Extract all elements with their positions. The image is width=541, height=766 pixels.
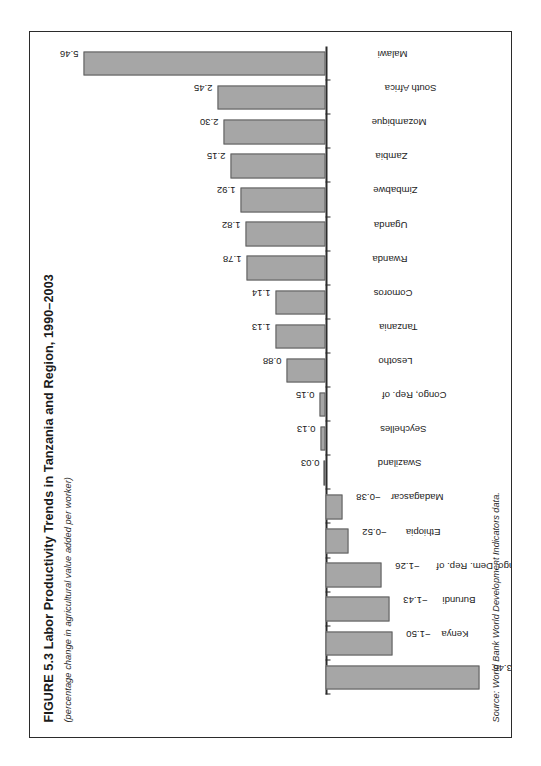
axis-tick — [325, 147, 330, 148]
bar — [325, 631, 392, 656]
axis-tick — [325, 318, 330, 319]
bar — [275, 290, 326, 315]
axis-tick — [325, 420, 330, 421]
bar-group: 1.13Tanzania — [83, 319, 479, 353]
bar-category-label: Ethiopia — [405, 526, 440, 537]
bar-value-label: −1.26 — [395, 560, 419, 571]
bar-group: 1.82Uganda — [83, 217, 479, 251]
axis-tick — [325, 181, 330, 182]
figure-canvas: FIGURE 5.3 Labor Productivity Trends in … — [29, 31, 512, 738]
bar-group: 5.46Malawi — [83, 46, 479, 80]
axis-tick — [325, 625, 330, 626]
bar-group: −3.46Botswana — [83, 660, 479, 694]
bar-category-label: Lesotho — [378, 355, 412, 366]
bar-value-label: 1.13 — [252, 321, 271, 332]
bar-value-label: 5.46 — [59, 48, 78, 59]
axis-tick — [325, 284, 330, 285]
bar-category-label: Rwanda — [372, 253, 407, 264]
bar — [286, 358, 325, 383]
bar-value-label: −0.52 — [362, 526, 386, 537]
bar-group: −0.52Ethiopia — [83, 524, 479, 558]
bar-group: 0.03Swaziland — [83, 455, 479, 489]
axis-tick — [325, 113, 330, 114]
bar-group: −1.50Kenya — [83, 626, 479, 660]
bar — [246, 255, 325, 280]
axis-tick — [325, 591, 330, 592]
bar-value-label: −0.38 — [356, 491, 380, 502]
axis-tick — [325, 79, 330, 80]
bar-category-label: Zimbabwe — [372, 184, 416, 195]
bar-group: 0.13Seychelles — [83, 421, 479, 455]
bar — [83, 51, 325, 76]
bar-value-label: 2.45 — [193, 82, 212, 93]
bar-category-label: Swaziland — [378, 457, 422, 468]
bar-group: −1.43Burundi — [83, 592, 479, 626]
axis-tick — [325, 659, 330, 660]
bar — [223, 119, 325, 144]
bar-chart-plot-area: −3.46Botswana−1.50Kenya−1.43Burundi−1.26… — [83, 46, 479, 694]
bar-value-label: 0.88 — [263, 355, 282, 366]
bar — [245, 221, 326, 246]
bar-category-label: Mozambique — [371, 116, 426, 127]
bar-group: 1.14Comoros — [83, 285, 479, 319]
bar-category-label: Seychelles — [380, 423, 426, 434]
figure-title: FIGURE 5.3 Labor Productivity Trends in … — [41, 274, 55, 722]
axis-tick — [325, 386, 330, 387]
axis-tick — [325, 557, 330, 558]
bar-value-label: 0.03 — [300, 457, 319, 468]
axis-tick — [325, 522, 330, 523]
bar-value-label: 1.92 — [216, 184, 235, 195]
bar-group: −0.38Madagascar — [83, 489, 479, 523]
bar-category-label: Madagascar — [390, 491, 443, 502]
axis-tick — [325, 488, 330, 489]
bar-group: 1.92Zimbabwe — [83, 182, 479, 216]
bar-category-label: Congo, Rep. of — [381, 389, 446, 400]
bar — [323, 460, 325, 485]
bar — [325, 528, 348, 553]
bar-group: 2.45South Africa — [83, 80, 479, 114]
bar — [325, 596, 388, 621]
bar-group: 1.78Rwanda — [83, 251, 479, 285]
bar-value-label: 0.15 — [295, 389, 314, 400]
axis-tick — [325, 352, 330, 353]
bar — [320, 426, 326, 451]
bar-value-label: 1.14 — [251, 287, 270, 298]
bar — [325, 665, 479, 690]
bar-category-label: Tanzania — [378, 321, 416, 332]
bar — [325, 562, 381, 587]
bar — [240, 187, 325, 212]
bar — [275, 324, 325, 349]
bar-value-label: 0.13 — [296, 423, 315, 434]
bar-category-label: Malawi — [377, 48, 407, 59]
bar-category-label: South Africa — [384, 82, 436, 93]
bar-group: 2.30Mozambique — [83, 114, 479, 148]
bar-category-label: Zambia — [375, 150, 407, 161]
bar-category-label: Uganda — [373, 219, 407, 230]
figure-source-note: Source: World Bank World Development Ind… — [490, 492, 500, 722]
bar-value-label: −1.43 — [403, 594, 427, 605]
bar-category-label: Burundi — [442, 594, 475, 605]
bar-category-label: Congo, Dem. Rep. of — [436, 560, 512, 571]
bar-value-label: 1.82 — [221, 219, 240, 230]
bar-category-label: Kenya — [441, 628, 468, 639]
bar-value-label: 1.78 — [223, 253, 242, 264]
bar-value-label: −1.50 — [406, 628, 430, 639]
bar-group: −1.26Congo, Dem. Rep. of — [83, 558, 479, 592]
bar-group: 0.15Congo, Rep. of — [83, 387, 479, 421]
bar-category-label: Comoros — [373, 287, 412, 298]
bar — [325, 494, 342, 519]
figure-subtitle: (percentage change in agricultural value… — [61, 477, 72, 722]
bar-value-label: 2.15 — [206, 150, 225, 161]
axis-tick — [325, 454, 330, 455]
bar-group: 0.88Lesotho — [83, 353, 479, 387]
bar-group: 2.15Zambia — [83, 148, 479, 182]
bar-value-label: 2.30 — [200, 116, 219, 127]
figure-frame: FIGURE 5.3 Labor Productivity Trends in … — [29, 31, 512, 738]
axis-tick — [325, 250, 330, 251]
axis-tick — [325, 216, 330, 217]
bar — [319, 392, 326, 417]
bar — [230, 153, 325, 178]
axis-tick — [325, 693, 330, 694]
bar — [217, 85, 326, 110]
